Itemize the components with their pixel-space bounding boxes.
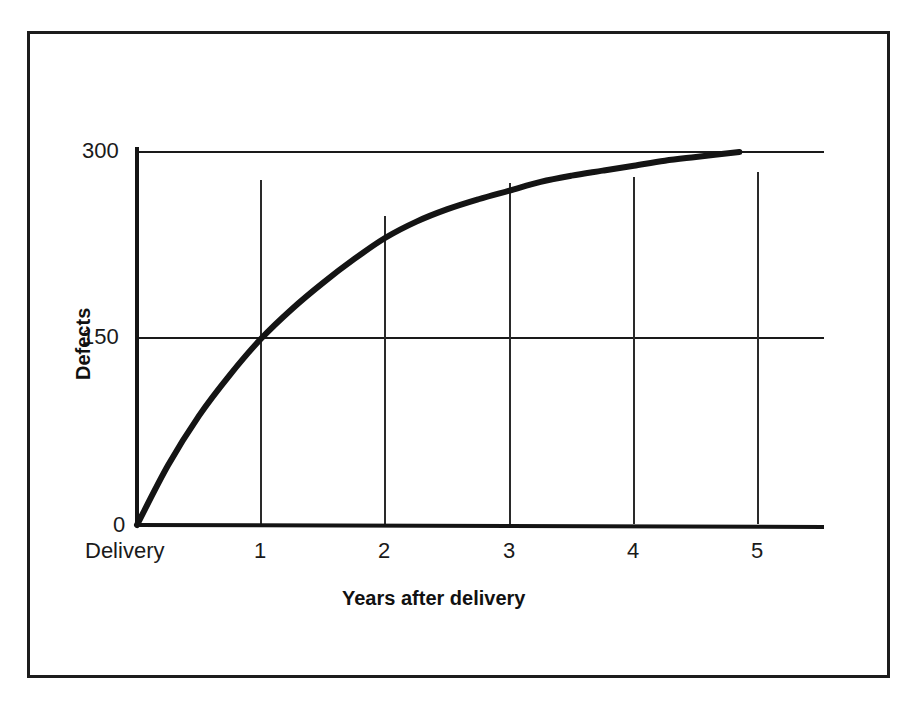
x-axis-spine <box>135 525 824 527</box>
x-tick-label-5: 5 <box>751 538 763 564</box>
x-tick-label-delivery: Delivery <box>85 538 164 564</box>
y-tick-label-0: 0 <box>113 512 125 538</box>
x-tick-label-2: 2 <box>378 538 390 564</box>
x-tick-label-1: 1 <box>254 538 266 564</box>
x-tick-label-3: 3 <box>503 538 515 564</box>
figure-root: 300 150 0 Delivery 1 2 3 4 5 Defects Yea… <box>0 0 901 702</box>
y-axis-title: Defects <box>72 308 95 380</box>
x-axis-title: Years after delivery <box>342 587 525 610</box>
x-tick-label-4: 4 <box>627 538 639 564</box>
y-tick-label-300: 300 <box>82 138 119 164</box>
